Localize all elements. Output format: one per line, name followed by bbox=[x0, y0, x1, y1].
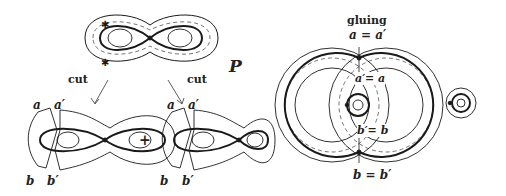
right-piece-label-b-prime: b′ bbox=[182, 174, 194, 188]
plus-operator: + bbox=[139, 132, 151, 148]
surface-label-p: P bbox=[229, 56, 242, 76]
left-piece-label-a: a bbox=[33, 98, 41, 112]
right-piece-label-a: a bbox=[167, 98, 175, 112]
right-piece-label-a-prime: a′ bbox=[188, 98, 199, 112]
glue-equation-inner-bottom: b′= b bbox=[357, 124, 388, 137]
right-piece-label-b: b bbox=[160, 174, 168, 188]
cut-piece-left bbox=[28, 108, 175, 170]
left-piece-label-b: b bbox=[26, 174, 34, 188]
diagram-canvas: ✱ ✱ bbox=[0, 0, 506, 196]
glued-surface bbox=[275, 47, 476, 163]
left-piece-label-b-prime: b′ bbox=[47, 174, 59, 188]
cut-piece-right bbox=[162, 108, 275, 170]
glue-equation-top: a = a′ bbox=[349, 28, 386, 42]
glue-equation-bottom: b = b′ bbox=[353, 168, 391, 182]
glue-equation-inner-top: a′= a bbox=[355, 72, 385, 85]
left-piece-label-a-prime: a′ bbox=[54, 98, 65, 112]
cut-label-left: cut bbox=[68, 73, 88, 86]
cut-point-top-icon: ✱ bbox=[101, 19, 109, 30]
cut-label-right: cut bbox=[187, 73, 207, 86]
cut-point-bottom-icon: ✱ bbox=[101, 57, 109, 68]
gluing-title: gluing bbox=[347, 14, 387, 27]
surface-p: ✱ ✱ bbox=[85, 15, 218, 68]
